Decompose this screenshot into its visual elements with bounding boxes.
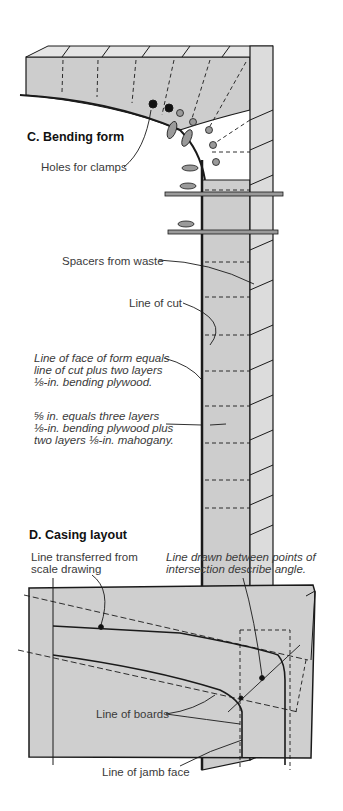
label-spacers-from-waste: Spacers from waste: [62, 255, 164, 267]
label-line-transferred-1: Line transferred from: [31, 551, 138, 563]
casing-layout-drawing: [18, 575, 315, 770]
label-face-line-2: line of cut plus two layers: [34, 364, 162, 376]
label-line-drawn-1: Line drawn between points of: [166, 551, 316, 563]
label-thickness-line-3: two layers ⅛-in. mahogany.: [34, 434, 174, 446]
label-holes-for-clamps: Holes for clamps: [41, 161, 127, 173]
label-face-line-1: Line of face of form equals: [34, 352, 170, 364]
label-thickness-line-1: ⅝ in. equals three layers: [34, 410, 159, 422]
figure-c-title: C. Bending form: [27, 130, 124, 144]
label-line-transferred-2: scale drawing: [31, 563, 101, 575]
label-thickness-line-2: ⅛-in. bending plywood plus: [34, 422, 173, 434]
label-line-drawn-2: intersection describe angle.: [166, 563, 306, 575]
label-line-of-boards: Line of boards: [96, 708, 169, 720]
label-line-of-cut: Line of cut: [129, 297, 182, 309]
label-face-line-3: ⅛-in. bending plywood.: [34, 376, 152, 388]
figure-d-title: D. Casing layout: [29, 528, 127, 542]
label-line-of-jamb-face: Line of jamb face: [102, 766, 190, 778]
illustration: [0, 0, 343, 811]
